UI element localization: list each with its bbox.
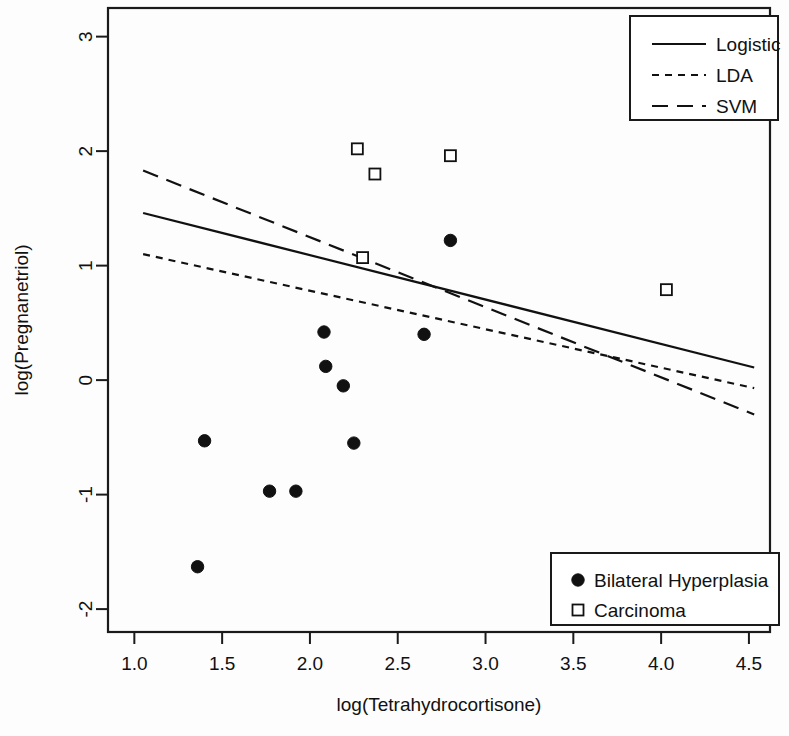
y-tick-label: -1 [75,486,96,503]
x-tick-label: 4.5 [736,653,762,674]
data-point-bilateral-hyperplasia [418,328,430,340]
scatter-plot-figure: 1.01.52.02.53.03.54.04.5 -2-10123 log(Te… [0,0,789,736]
x-tick-label: 2.5 [385,653,411,674]
legend-line-label[interactable]: SVM [716,96,757,117]
data-point-bilateral-hyperplasia [290,485,302,497]
data-point-bilateral-hyperplasia [348,437,360,449]
x-axis-ticks: 1.01.52.02.53.03.54.04.5 [121,632,762,674]
regression-line-lda [143,254,754,388]
legend-groups[interactable]: Bilateral HyperplasiaCarcinoma [551,553,779,625]
x-tick-label: 3.0 [472,653,498,674]
x-tick-label: 3.5 [560,653,586,674]
y-tick-label: 0 [75,375,96,386]
y-tick-label: 2 [75,146,96,157]
data-point-bilateral-hyperplasia [444,234,456,246]
data-point-carcinoma [369,169,380,180]
data-point-bilateral-hyperplasia [198,435,210,447]
legend-marker-filled-circle-icon [572,574,584,586]
legend-line-label[interactable]: Logistic [716,34,780,55]
x-tick-label: 1.5 [209,653,235,674]
y-tick-label: -2 [75,601,96,618]
x-tick-label: 4.0 [648,653,674,674]
data-point-carcinoma [357,252,368,263]
legend-group-label[interactable]: Carcinoma [594,600,686,621]
y-axis-ticks: -2-10123 [75,31,108,617]
legend-marker-open-square-icon [573,605,584,616]
legend-lines[interactable]: LogisticLDASVM [630,16,780,120]
x-tick-label: 2.0 [297,653,323,674]
y-tick-label: 1 [75,260,96,271]
x-axis-title: log(Tetrahydrocortisone) [337,694,542,715]
data-point-bilateral-hyperplasia [191,561,203,573]
data-point-bilateral-hyperplasia [263,485,275,497]
data-point-carcinoma [445,150,456,161]
plot-canvas: 1.01.52.02.53.03.54.04.5 -2-10123 log(Te… [0,0,789,736]
y-tick-label: 3 [75,31,96,42]
data-point-bilateral-hyperplasia [320,360,332,372]
legend-group-label[interactable]: Bilateral Hyperplasia [594,570,769,591]
data-point-carcinoma [661,284,672,295]
legend-line-label[interactable]: LDA [716,65,753,86]
data-point-bilateral-hyperplasia [337,380,349,392]
data-points-layer [191,143,672,573]
data-point-bilateral-hyperplasia [318,326,330,338]
x-tick-label: 1.0 [121,653,147,674]
y-axis-title: log(Pregnanetriol) [11,244,32,395]
data-point-carcinoma [352,143,363,154]
